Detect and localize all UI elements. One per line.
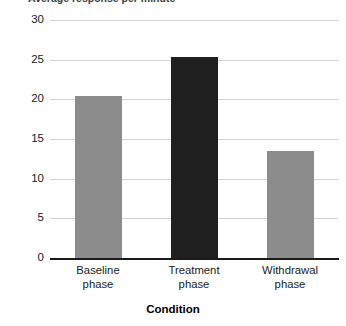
x-axis-tick-label: Baselinephase xyxy=(50,264,146,291)
x-axis-tick-label: Treatmentphase xyxy=(146,264,242,291)
x-axis-tick-label-line: phase xyxy=(50,278,146,292)
x-axis-tick-label-line: Treatment xyxy=(146,264,242,278)
bar-chart: Average response per minute 302520151050… xyxy=(0,0,346,326)
x-axis-tick-label-line: phase xyxy=(242,278,338,292)
bar xyxy=(75,96,122,258)
clipped-chart-title-text: Average response per minute xyxy=(28,0,175,4)
y-axis-tick-label: 10 xyxy=(2,173,44,185)
y-axis-tick-label: 5 xyxy=(2,212,44,224)
clipped-chart-title: Average response per minute xyxy=(0,0,346,9)
y-axis-tick-label: 25 xyxy=(2,54,44,66)
x-axis-tick-label: Withdrawalphase xyxy=(242,264,338,291)
bar xyxy=(267,151,314,258)
y-axis-tick-labels: 302520151050 xyxy=(0,0,44,326)
x-axis-tick-label-line: Withdrawal xyxy=(242,264,338,278)
gridline xyxy=(50,20,338,21)
y-axis-tick-label: 0 xyxy=(2,252,44,264)
x-axis-line xyxy=(50,258,339,260)
y-axis-tick-label: 30 xyxy=(2,14,44,26)
y-axis-tick-label: 15 xyxy=(2,133,44,145)
x-axis-title: Condition xyxy=(0,303,346,315)
plot-area xyxy=(50,20,338,258)
bar xyxy=(171,57,218,258)
x-axis-tick-label-line: phase xyxy=(146,278,242,292)
x-axis-tick-label-line: Baseline xyxy=(50,264,146,278)
y-axis-tick-label: 20 xyxy=(2,93,44,105)
